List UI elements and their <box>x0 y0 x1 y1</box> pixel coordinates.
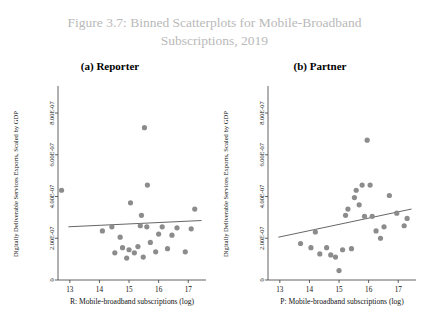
y-tick-label: 8.00E-07 <box>48 100 55 124</box>
x-tick-label: 13 <box>276 286 284 294</box>
data-point <box>160 224 165 229</box>
data-point <box>135 244 140 249</box>
data-point <box>368 182 373 187</box>
data-point <box>100 228 105 233</box>
data-point <box>349 246 354 251</box>
data-point <box>153 249 158 254</box>
data-point <box>126 247 131 252</box>
panel-partner: (b) Partner 02.00E-074.00E-076.00E-078.0… <box>216 60 424 322</box>
data-point <box>156 231 161 236</box>
figure-title: Figure 3.7: Binned Scatterplots for Mobi… <box>0 14 429 50</box>
data-point <box>387 193 392 198</box>
y-tick-label: 6.00E-07 <box>258 142 265 166</box>
panel-title-reporter: (a) Reporter <box>6 60 214 72</box>
figure-page: Figure 3.7: Binned Scatterplots for Mobi… <box>0 0 429 330</box>
y-tick-label: 6.00E-07 <box>48 142 55 166</box>
data-point <box>340 247 345 252</box>
y-tick-label: 2.00E-07 <box>258 226 265 250</box>
panel-reporter: (a) Reporter 02.00E-074.00E-076.00E-078.… <box>6 60 214 322</box>
data-point <box>343 213 348 218</box>
data-point <box>174 225 179 230</box>
y-tick-label: 4.00E-07 <box>258 184 265 208</box>
y-axis-title: Digitally Deliverable Services Exports, … <box>222 111 229 257</box>
x-tick-label: 15 <box>125 286 133 294</box>
figure-title-line-2: Subscriptions, 2019 <box>0 32 429 50</box>
panel-title-partner: (b) Partner <box>216 60 424 72</box>
y-tick-label: 0 <box>48 278 55 281</box>
x-axis-title: P: Mobile-broadband subscriptions (log) <box>280 297 404 306</box>
scatterplot-partner-svg: 02.00E-074.00E-076.00E-078.00E-071314151… <box>216 82 424 322</box>
data-point <box>370 214 375 219</box>
data-point <box>112 250 117 255</box>
data-point <box>169 233 174 238</box>
data-point <box>378 236 383 241</box>
data-point <box>183 249 188 254</box>
data-point <box>142 125 147 130</box>
data-point <box>352 195 357 200</box>
figure-title-line-1: Figure 3.7: Binned Scatterplots for Mobi… <box>0 14 429 32</box>
plot-partner: 02.00E-074.00E-076.00E-078.00E-071314151… <box>216 82 424 322</box>
fit-line <box>68 221 201 227</box>
data-point <box>165 246 170 251</box>
data-point <box>139 213 144 218</box>
x-tick-label: 14 <box>306 286 314 294</box>
data-point <box>132 250 137 255</box>
data-point <box>365 138 370 143</box>
data-point <box>402 223 407 228</box>
y-tick-label: 0 <box>258 278 265 281</box>
data-point <box>405 216 410 221</box>
data-point <box>144 224 149 229</box>
data-point <box>145 182 150 187</box>
data-point <box>308 245 313 250</box>
x-tick-label: 13 <box>66 286 74 294</box>
x-tick-label: 16 <box>365 286 373 294</box>
data-point <box>148 240 153 245</box>
x-axis-title: R: Mobile-broadband subscriptions (log) <box>70 297 195 306</box>
y-tick-label: 4.00E-07 <box>48 184 55 208</box>
data-point <box>138 223 143 228</box>
data-point <box>333 254 338 259</box>
data-point <box>317 251 322 256</box>
plot-reporter: 02.00E-074.00E-076.00E-078.00E-071314151… <box>6 82 214 322</box>
data-point <box>59 188 64 193</box>
y-tick-label: 2.00E-07 <box>48 226 55 250</box>
y-axis-title: Digitally Deliverable Services Exports, … <box>12 111 19 257</box>
data-point <box>298 241 303 246</box>
x-tick-label: 15 <box>335 286 343 294</box>
data-point <box>141 254 146 259</box>
data-point <box>345 206 350 211</box>
data-point <box>373 228 378 233</box>
x-tick-label: 17 <box>185 286 193 294</box>
data-point <box>362 214 367 219</box>
data-point <box>189 226 194 231</box>
x-tick-label: 17 <box>395 286 403 294</box>
data-point <box>118 235 123 240</box>
data-point <box>192 206 197 211</box>
data-point <box>109 224 114 229</box>
data-point <box>313 229 318 234</box>
data-point <box>128 200 133 205</box>
data-point <box>357 202 362 207</box>
data-point <box>360 182 365 187</box>
data-point <box>354 188 359 193</box>
data-point <box>124 255 129 260</box>
x-tick-label: 16 <box>155 286 163 294</box>
x-tick-label: 14 <box>96 286 104 294</box>
data-point <box>120 245 125 250</box>
data-point <box>381 224 386 229</box>
y-tick-label: 8.00E-07 <box>258 100 265 124</box>
data-point <box>394 211 399 216</box>
data-point <box>324 245 329 250</box>
data-point <box>336 268 341 273</box>
data-point <box>328 252 333 257</box>
scatterplot-reporter-svg: 02.00E-074.00E-076.00E-078.00E-071314151… <box>6 82 214 322</box>
